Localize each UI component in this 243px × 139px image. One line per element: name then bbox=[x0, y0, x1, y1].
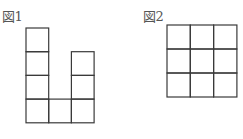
grid-cell bbox=[71, 99, 94, 123]
grid-cell bbox=[214, 25, 237, 49]
grid-cell bbox=[49, 99, 72, 123]
grid-cell bbox=[26, 75, 49, 99]
grid-cell bbox=[190, 73, 213, 97]
grid-cell bbox=[71, 52, 94, 76]
grid-cell bbox=[71, 75, 94, 99]
grid-cell bbox=[190, 49, 213, 73]
figures-canvas bbox=[0, 0, 243, 139]
grid-cell bbox=[214, 73, 237, 97]
grid-cell bbox=[190, 25, 213, 49]
figure-2-grid bbox=[167, 25, 237, 97]
grid-cell bbox=[167, 49, 190, 73]
grid-cell bbox=[26, 28, 49, 52]
grid-cell bbox=[26, 52, 49, 76]
grid-cell bbox=[214, 49, 237, 73]
grid-cell bbox=[167, 73, 190, 97]
figure-1-polyomino bbox=[26, 28, 94, 123]
grid-cell bbox=[167, 25, 190, 49]
grid-cell bbox=[26, 99, 49, 123]
